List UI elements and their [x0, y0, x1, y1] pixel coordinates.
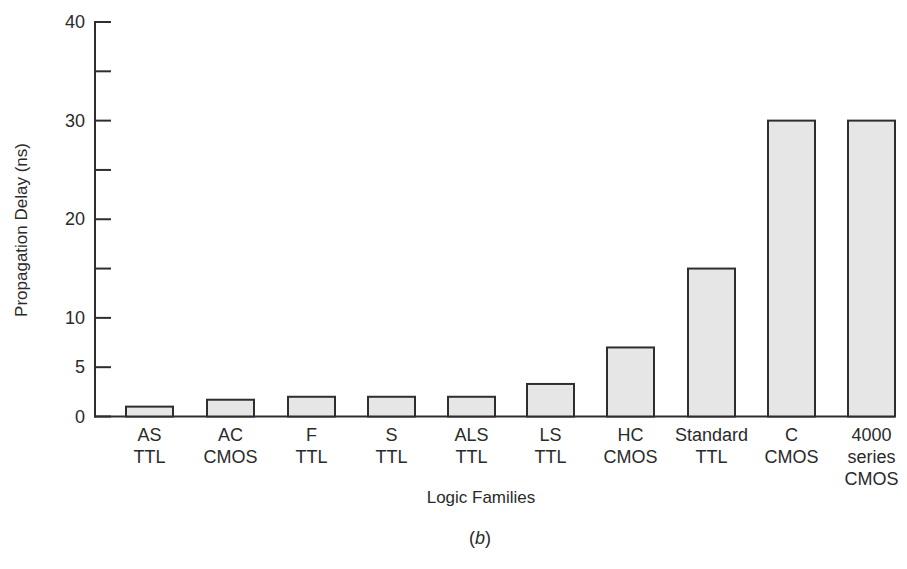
x-tick-label: 4000 series CMOS: [822, 424, 907, 490]
y-tick-label: 40: [45, 13, 85, 31]
y-tick-label: 0: [45, 408, 85, 426]
caption-letter: b: [475, 528, 485, 548]
bar: [207, 400, 254, 417]
bar-chart: Propagation Delay (ns) Logic Families (b…: [0, 0, 907, 569]
bar: [448, 397, 495, 417]
y-tick-label: 30: [45, 112, 85, 130]
x-axis-label: Logic Families: [381, 488, 581, 508]
figure-caption: (b): [450, 528, 510, 549]
y-tick-label: 5: [45, 358, 85, 376]
bar: [288, 397, 335, 417]
bar: [848, 121, 895, 417]
bar: [368, 397, 415, 417]
bar: [527, 384, 574, 417]
bar: [126, 407, 173, 417]
bar: [688, 269, 735, 417]
y-tick-label: 10: [45, 309, 85, 327]
plot-area: [0, 0, 907, 569]
bar: [607, 347, 654, 416]
y-tick-label: 20: [45, 210, 85, 228]
bar: [768, 121, 815, 417]
y-axis-label: Propagation Delay (ns): [12, 130, 32, 330]
